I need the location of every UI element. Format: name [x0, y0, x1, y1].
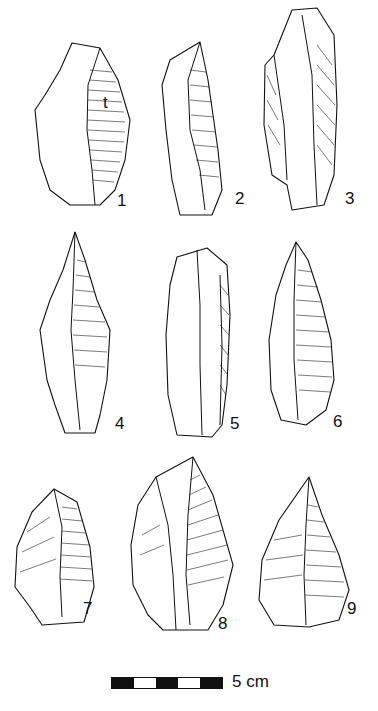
artifact-label-3: 3 [345, 190, 354, 207]
annotation-t: t [103, 94, 108, 111]
scale-segment [178, 678, 200, 688]
scale-segment [200, 678, 222, 688]
artifact-4-drawing [35, 230, 115, 435]
scale-bar-label: 5 cm [232, 673, 269, 690]
scale-segment [112, 678, 134, 688]
artifact-label-1: 1 [117, 192, 126, 209]
artifact-2-drawing [160, 40, 230, 220]
scale-bar [111, 677, 223, 689]
artifact-label-9: 9 [347, 600, 356, 617]
scale-segment [156, 678, 178, 688]
artifact-1-drawing [30, 40, 140, 210]
artifact-label-4: 4 [115, 415, 124, 432]
artifact-plate: t 1 2 3 [0, 0, 378, 711]
artifact-5-drawing [162, 245, 237, 440]
artifact-3-drawing [262, 5, 342, 215]
scale-segment [134, 678, 156, 688]
artifact-6-drawing [266, 240, 342, 430]
artifact-label-8: 8 [218, 615, 227, 632]
artifact-label-5: 5 [230, 415, 239, 432]
artifact-label-2: 2 [235, 190, 244, 207]
artifact-label-7: 7 [83, 600, 92, 617]
artifact-label-6: 6 [333, 413, 342, 430]
artifact-8-drawing [128, 455, 236, 635]
artifact-9-drawing [254, 475, 354, 630]
